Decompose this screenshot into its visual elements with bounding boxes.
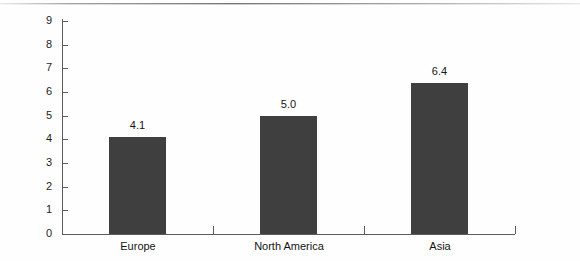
y-axis-tick-label: 0 [26, 228, 52, 239]
bar-value-label: 5.0 [281, 99, 296, 110]
x-axis-category-label: North America [254, 240, 324, 252]
bar-chart-figure: 0123456789 4.15.06.4 EuropeNorth America… [0, 0, 580, 261]
bar-series-group: 4.15.06.4 [62, 21, 515, 234]
bar [260, 116, 317, 234]
x-axis-category-label: Europe [120, 240, 155, 252]
y-axis-tick-label: 5 [26, 110, 52, 121]
bar-value-label: 4.1 [130, 120, 145, 131]
bar-column: 4.1 [109, 21, 166, 234]
x-axis-category-label: Asia [429, 240, 450, 252]
bar [109, 137, 166, 234]
y-axis-tick-label: 1 [26, 204, 52, 215]
y-axis-tick-label: 7 [26, 62, 52, 73]
y-axis-tick-label: 8 [26, 39, 52, 50]
bar-column: 5.0 [260, 21, 317, 234]
x-axis-line [62, 234, 515, 235]
y-axis-tick-label: 2 [26, 181, 52, 192]
y-axis-tick-label: 9 [26, 15, 52, 26]
bar [411, 83, 468, 234]
y-axis-tick [62, 234, 68, 235]
y-axis-tick-label: 6 [26, 86, 52, 97]
x-axis-tick [515, 226, 516, 234]
bar-value-label: 6.4 [432, 66, 447, 77]
bar-column: 6.4 [411, 21, 468, 234]
y-axis-tick-label: 4 [26, 133, 52, 144]
scan-artifact-line-secondary [0, 4, 580, 5]
y-axis-tick-label: 3 [26, 157, 52, 168]
